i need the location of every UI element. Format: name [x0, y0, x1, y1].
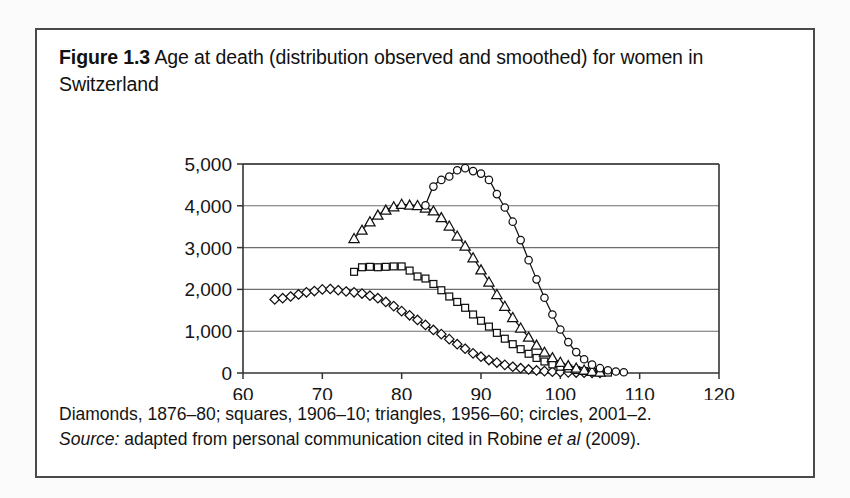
square-marker [446, 293, 453, 300]
triangle-marker [484, 277, 494, 286]
x-tick-label: 100 [544, 384, 576, 400]
x-tick-label: 60 [232, 384, 253, 400]
circle-marker [612, 368, 619, 375]
circle-marker [565, 338, 572, 345]
y-tick-label: 3,000 [184, 238, 232, 259]
series-data-markers [270, 164, 627, 377]
square-marker [374, 264, 381, 271]
diamond-marker [278, 293, 287, 302]
diamond-marker [508, 362, 517, 371]
triangle-marker [500, 301, 510, 310]
diamond-marker [452, 339, 461, 348]
circle-marker [501, 204, 508, 211]
caption-source-etal: et al [547, 429, 580, 449]
circle-marker [541, 294, 548, 301]
scanned-page: Figure 1.3 Age at death (distribution ob… [0, 0, 850, 498]
circle-marker [557, 326, 564, 333]
diamond-marker [516, 363, 525, 372]
x-tick-label: 70 [312, 384, 333, 400]
caption-series-key: Diamonds, 1876–80; squares, 1906–10; tri… [59, 402, 799, 427]
triangle-marker [460, 241, 470, 250]
series-curve-2 [354, 204, 600, 372]
diamond-marker [310, 286, 319, 295]
square-marker [406, 267, 413, 274]
figure-caption: Diamonds, 1876–80; squares, 1906–10; tri… [59, 402, 799, 452]
square-marker [382, 263, 389, 270]
caption-source-line: Source: adapted from personal communicat… [59, 427, 799, 452]
circle-marker [573, 348, 580, 355]
square-marker [470, 311, 477, 318]
circle-marker [493, 190, 500, 197]
diamond-marker [357, 289, 366, 298]
caption-source-text-a: adapted from personal communication cite… [119, 429, 547, 449]
x-axis-tick-labels: 60708090100110120 [232, 384, 734, 400]
square-marker [359, 264, 366, 271]
square-marker [398, 263, 405, 270]
circle-marker [596, 364, 603, 371]
y-axis-tick-labels: 01,0002,0003,0004,0005,000 [184, 154, 232, 384]
circle-marker [461, 164, 468, 171]
diamond-marker [294, 290, 303, 299]
triangle-marker [452, 231, 462, 240]
square-marker [438, 287, 445, 294]
circle-marker [525, 256, 532, 263]
square-marker [366, 263, 373, 270]
square-marker [422, 275, 429, 282]
triangle-marker [516, 323, 526, 332]
triangle-marker [476, 265, 486, 274]
circle-marker [517, 236, 524, 243]
y-tick-label: 4,000 [184, 196, 232, 217]
triangle-marker [492, 290, 502, 299]
circle-marker [533, 276, 540, 283]
circle-marker [446, 173, 453, 180]
diamond-marker [445, 334, 454, 343]
diamond-marker [326, 284, 335, 293]
figure-box: Figure 1.3 Age at death (distribution ob… [35, 28, 815, 478]
diamond-marker [413, 315, 422, 324]
diamond-marker [460, 344, 469, 353]
diamond-marker [421, 320, 430, 329]
circle-marker [485, 176, 492, 183]
circle-marker [430, 183, 437, 190]
square-marker [525, 350, 532, 357]
square-marker [478, 317, 485, 324]
square-marker [462, 304, 469, 311]
square-marker [517, 346, 524, 353]
gridlines-group [243, 164, 719, 331]
x-tick-label: 110 [625, 384, 655, 400]
circle-marker [549, 311, 556, 318]
circle-marker [620, 369, 627, 376]
triangle-marker [508, 313, 518, 322]
square-marker [485, 323, 492, 330]
y-tick-label: 5,000 [184, 154, 232, 175]
circle-marker [438, 176, 445, 183]
circle-marker [454, 167, 461, 174]
caption-source-text-b: (2009). [580, 429, 640, 449]
square-marker [454, 299, 461, 306]
square-marker [414, 273, 421, 280]
y-tick-label: 1,000 [184, 321, 232, 342]
age-at-death-chart: 01,0002,0003,0004,0005,000 6070809010011… [37, 90, 817, 400]
square-marker [390, 263, 397, 270]
circle-marker [509, 218, 516, 225]
x-tick-label: 90 [470, 384, 491, 400]
circle-marker [588, 361, 595, 368]
diamond-marker [270, 295, 279, 304]
x-tick-label: 120 [703, 384, 735, 400]
diamond-marker [333, 286, 342, 295]
y-tick-label: 2,000 [184, 279, 232, 300]
y-tick-label: 0 [221, 363, 232, 384]
square-marker [509, 341, 516, 348]
circle-marker [580, 356, 587, 363]
diamond-marker [286, 292, 295, 301]
series-markers-2 [349, 199, 605, 376]
circle-marker [477, 170, 484, 177]
triangle-marker [468, 253, 478, 262]
square-marker [351, 268, 358, 275]
square-marker [533, 355, 540, 362]
diamond-marker [500, 360, 509, 369]
square-marker [430, 281, 437, 288]
circle-marker [422, 202, 429, 209]
square-marker [501, 335, 508, 342]
circle-marker [604, 367, 611, 374]
